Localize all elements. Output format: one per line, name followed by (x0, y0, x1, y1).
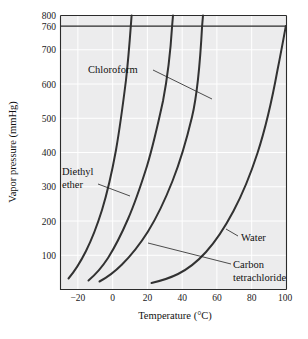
y-axis-title: Vapor pressure (mmHg) (7, 101, 19, 203)
y-tick-600: 600 (42, 80, 57, 90)
x-tick-40: 40 (177, 293, 187, 303)
vapor-pressure-figure: 800 760 700 600 500 400 300 200 100 −20 … (0, 0, 308, 339)
carbon-tetrachloride-label-line2: tetrachloride (233, 272, 286, 283)
carbon-tetrachloride-label-line1: Carbon (233, 259, 265, 270)
x-tick-100: 100 (278, 293, 293, 303)
y-tick-400: 400 (42, 148, 57, 158)
x-tick-60: 60 (212, 293, 222, 303)
x-tick-minus20: −20 (70, 293, 85, 303)
x-axis-title: Temperature (°C) (138, 310, 212, 322)
y-tick-700: 700 (42, 45, 57, 55)
y-tick-200: 200 (42, 217, 57, 227)
x-tick-0: 0 (110, 293, 115, 303)
y-tick-760: 760 (42, 22, 57, 32)
y-tick-800: 800 (42, 11, 57, 21)
water-label: Water (241, 232, 266, 243)
x-tick-80: 80 (247, 293, 257, 303)
vapor-pressure-chart: 800 760 700 600 500 400 300 200 100 −20 … (0, 0, 308, 339)
y-tick-300: 300 (42, 182, 57, 192)
diethyl-ether-label-line2: ether (62, 179, 83, 190)
x-tick-labels: −20 0 20 40 60 80 100 (70, 293, 292, 303)
y-tick-labels: 800 760 700 600 500 400 300 200 100 (42, 11, 57, 261)
chloroform-label: Chloroform (88, 64, 138, 75)
y-tick-500: 500 (42, 114, 57, 124)
y-tick-100: 100 (42, 251, 57, 261)
x-tick-20: 20 (143, 293, 153, 303)
diethyl-ether-label-line1: Diethyl (62, 166, 94, 177)
